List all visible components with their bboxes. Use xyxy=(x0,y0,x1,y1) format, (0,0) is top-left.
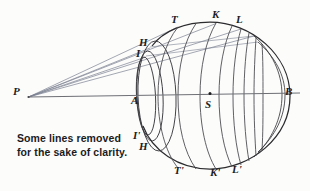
ray-p-to-H xyxy=(29,48,151,97)
latitude-circles xyxy=(158,23,263,169)
label-L-prime: L' xyxy=(232,164,242,175)
label-K: K xyxy=(212,9,219,20)
limb-arc-1 xyxy=(254,36,282,157)
latitude-circle-4 xyxy=(219,26,232,167)
latitude-circle-L xyxy=(233,29,241,165)
figure-caption: Some lines removed for the sake of clari… xyxy=(17,131,127,159)
label-I-upper: I xyxy=(136,48,140,59)
latitude-circle-2 xyxy=(178,24,196,170)
label-P: P xyxy=(13,86,20,97)
label-B: B xyxy=(285,86,292,97)
chord-group xyxy=(146,36,258,56)
axis-line-group xyxy=(29,93,301,97)
label-A: A xyxy=(131,95,138,106)
latitude-circle-K xyxy=(200,23,216,169)
latitude-circle-8 xyxy=(262,44,263,150)
contact-circle-outer-left xyxy=(136,40,178,151)
axis-line-p-to-b xyxy=(29,93,301,97)
label-L: L xyxy=(236,14,243,25)
latitude-circle-7 xyxy=(254,38,256,156)
ray-p-to-T xyxy=(29,27,179,97)
centre-dot-s xyxy=(209,92,212,95)
label-S: S xyxy=(205,99,211,110)
latitude-circle-T xyxy=(158,27,178,168)
geometry-diagram xyxy=(0,0,310,191)
label-H-lower: H xyxy=(139,141,148,152)
figure-canvas: P T K L H I A S B I' H T' K' L' Some lin… xyxy=(0,0,310,191)
label-K-prime: K' xyxy=(210,167,220,178)
latitude-circle-6 xyxy=(244,33,249,161)
contact-circles-left xyxy=(134,40,177,151)
label-T-prime: T' xyxy=(174,165,184,176)
label-T: T xyxy=(171,14,178,25)
limb-arcs-right xyxy=(254,36,285,157)
label-H-upper: H xyxy=(139,37,148,48)
ray-p-to-I xyxy=(29,57,147,97)
apex-dot-p xyxy=(27,96,29,98)
